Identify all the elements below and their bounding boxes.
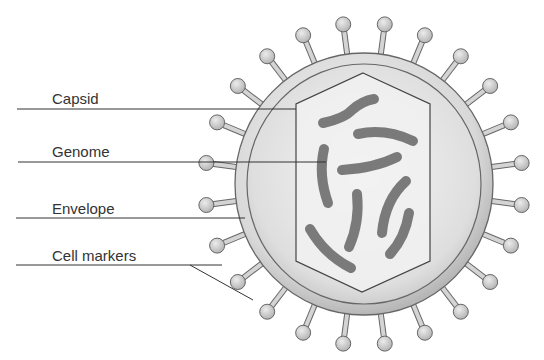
spike-knob <box>336 336 351 351</box>
spike-knob <box>453 49 468 64</box>
spike-knob <box>417 28 432 43</box>
envelope-label: Envelope <box>52 201 115 216</box>
spike-knob <box>296 325 311 340</box>
spike-knob <box>417 325 432 340</box>
spike-knob <box>514 155 529 170</box>
spike-knob <box>260 304 275 319</box>
spike-knob <box>296 28 311 43</box>
spike-knob <box>210 238 225 253</box>
spike-knob <box>453 304 468 319</box>
spike-knob <box>260 49 275 64</box>
spike-knob <box>377 336 392 351</box>
spike-knob <box>514 198 529 213</box>
spike-knob <box>483 275 498 290</box>
spike-knob <box>199 155 214 170</box>
spike-knob <box>210 115 225 130</box>
virus-diagram: Capsid Genome Envelope Cell markers <box>0 0 544 360</box>
capsid-label: Capsid <box>52 91 99 106</box>
spike-knob <box>377 17 392 32</box>
spike-knob <box>199 198 214 213</box>
spike-knob <box>336 17 351 32</box>
spike-knob <box>503 238 518 253</box>
spike-knob <box>503 115 518 130</box>
spike-knob <box>230 78 245 93</box>
cell-markers-label: Cell markers <box>52 248 136 263</box>
spike-knob <box>230 275 245 290</box>
spike-knob <box>483 78 498 93</box>
genome-label: Genome <box>52 144 110 159</box>
